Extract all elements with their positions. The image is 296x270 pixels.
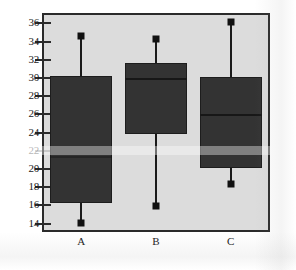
whisker-cap-upper-c	[227, 19, 234, 26]
plot-area: 363432302826242220181614	[42, 13, 270, 232]
median-line-b	[125, 78, 187, 80]
plot-inner: 363432302826242220181614	[44, 15, 268, 230]
whisker-cap-lower-b	[153, 203, 160, 210]
box-c	[200, 77, 262, 168]
y-axis-tick-label: 22	[28, 144, 39, 155]
y-axis-tick-label: 34	[28, 35, 39, 46]
x-axis-label-c: C	[227, 236, 234, 247]
y-axis-tick-label: 24	[28, 126, 39, 137]
y-axis-tick-label: 14	[28, 217, 39, 228]
whisker-cap-lower-a	[78, 219, 85, 226]
y-axis-tick-label: 32	[28, 53, 39, 64]
y-axis-tick-label: 20	[28, 163, 39, 174]
y-axis-tick-label: 30	[28, 71, 39, 82]
whisker-cap-upper-b	[153, 35, 160, 42]
x-axis-label-a: A	[77, 236, 85, 247]
x-axis-label-b: B	[152, 236, 159, 247]
box-b	[125, 63, 187, 134]
y-axis-tick-label: 28	[28, 90, 39, 101]
median-line-c	[200, 114, 262, 116]
box-a	[50, 76, 112, 203]
y-axis-tick-label: 36	[28, 17, 39, 28]
boxplot-figure: 363432302826242220181614 ABC	[0, 0, 296, 270]
whisker-cap-lower-c	[227, 181, 234, 188]
y-axis-tick-label: 26	[28, 108, 39, 119]
whisker-cap-upper-a	[78, 32, 85, 39]
median-line-a	[50, 156, 112, 158]
y-axis-tick-label: 18	[28, 181, 39, 192]
y-axis-tick-label: 16	[28, 199, 39, 210]
